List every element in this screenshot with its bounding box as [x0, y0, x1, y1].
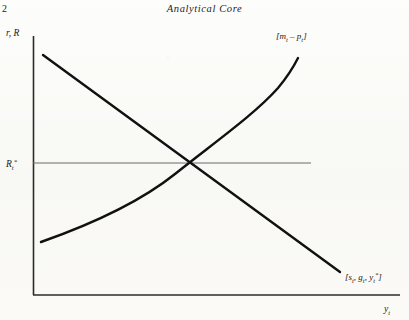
textbook-page: 2 Analytical Core r, R Rt* [mt – pt]: [0, 0, 409, 320]
running-head: 2 Analytical Core: [0, 3, 409, 19]
y-axis-label: r, R: [6, 28, 19, 38]
figure-ism-equilibrium-diagram: r, R Rt* [mt – pt] [st, gt, yt*] yt: [0, 22, 409, 320]
saving-schedule-curve-label: [st, gt, yt*]: [345, 271, 382, 284]
running-head-title: Analytical Core: [0, 3, 409, 14]
money-balances-curve-label: [mt – pt]: [276, 31, 307, 43]
equilibrium-rate-label: Rt*: [5, 158, 18, 171]
x-axis-label: yt: [383, 304, 390, 316]
